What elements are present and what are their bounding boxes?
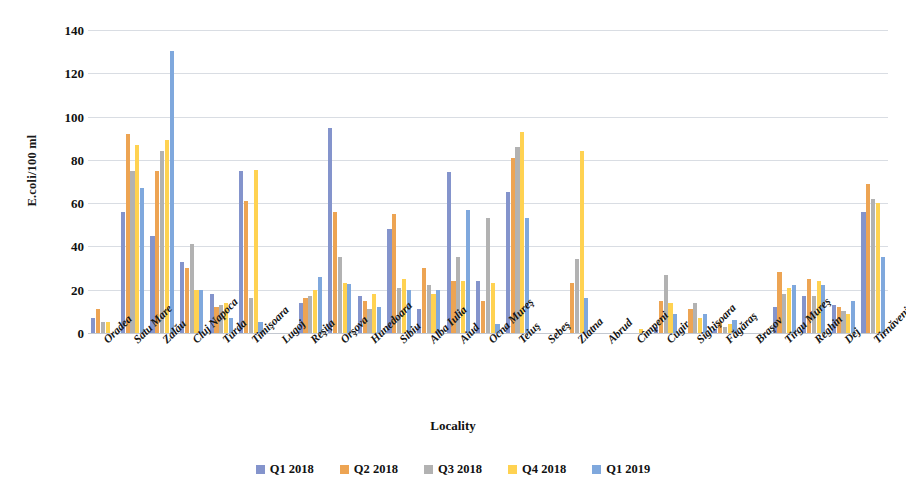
bar-group [325, 30, 355, 333]
legend-swatch-icon [256, 465, 265, 474]
bar [338, 257, 342, 333]
bar-chart: E.coli/100 ml 020406080100120140 OradeaS… [0, 0, 906, 504]
bar-group [177, 30, 207, 333]
bar [328, 128, 332, 333]
bar-group [592, 30, 622, 333]
bar [333, 212, 337, 333]
bar [486, 218, 490, 333]
bar [688, 309, 692, 333]
legend-swatch-icon [340, 465, 349, 474]
bar-group [740, 30, 770, 333]
bar-group [562, 30, 592, 333]
bar [101, 322, 105, 333]
bar-group [769, 30, 799, 333]
bar-group [681, 30, 711, 333]
legend-swatch-icon [592, 465, 601, 474]
y-axis-ticks: 020406080100120140 [40, 30, 84, 333]
bar-group [651, 30, 681, 333]
bar-group [532, 30, 562, 333]
bar-group [266, 30, 296, 333]
y-axis-tick-label: 140 [48, 24, 84, 37]
bar [372, 294, 376, 333]
bar [861, 212, 865, 333]
bar [481, 301, 485, 333]
bar-groups [88, 30, 888, 333]
bar-group [355, 30, 385, 333]
legend-label: Q4 2018 [522, 462, 566, 477]
bar [693, 303, 697, 333]
bar [876, 203, 880, 333]
legend-label: Q1 2018 [270, 462, 314, 477]
bar-group [236, 30, 266, 333]
bar-group [621, 30, 651, 333]
bar [343, 283, 347, 333]
bar [170, 51, 174, 333]
bar [140, 188, 144, 333]
legend-swatch-icon [508, 465, 517, 474]
x-axis-ticks: OradeaSatu MareZalăuCluj NapocaTurdaTimi… [88, 333, 888, 423]
bar [313, 290, 317, 333]
legend-label: Q1 2019 [606, 462, 650, 477]
bar [422, 268, 426, 333]
legend-label: Q2 2018 [354, 462, 398, 477]
legend-item[interactable]: Q1 2018 [256, 462, 314, 477]
y-axis-title-label: E.coli/100 ml [25, 134, 40, 206]
bar-group [147, 30, 177, 333]
bar [427, 285, 431, 333]
bar [525, 218, 529, 333]
bar-group [473, 30, 503, 333]
bar [511, 158, 515, 333]
y-axis-tick-label: 80 [48, 153, 84, 166]
bar [664, 275, 668, 333]
x-axis-title: Locality [0, 418, 906, 434]
legend-swatch-icon [424, 465, 433, 474]
bar-group [384, 30, 414, 333]
bar-group [858, 30, 888, 333]
legend-item[interactable]: Q4 2018 [508, 462, 566, 477]
x-axis-title-label: Locality [430, 418, 476, 433]
bar [239, 171, 243, 333]
bar [575, 259, 579, 333]
bar [580, 151, 584, 333]
legend: Q1 2018Q2 2018Q3 2018Q4 2018Q1 2019 [0, 462, 906, 477]
bar [194, 290, 198, 333]
bar [91, 318, 95, 333]
bar-group [710, 30, 740, 333]
bar-group [444, 30, 474, 333]
bar-group [414, 30, 444, 333]
y-axis-tick-label: 0 [48, 327, 84, 340]
bar [135, 145, 139, 333]
plot-area [88, 30, 888, 333]
bar [871, 199, 875, 333]
bar [881, 257, 885, 333]
bar [782, 294, 786, 333]
bar [447, 172, 451, 333]
bar [249, 298, 253, 333]
bar-group [88, 30, 118, 333]
bar-group [503, 30, 533, 333]
bar [244, 201, 248, 333]
bar-group [118, 30, 148, 333]
bar [96, 309, 100, 333]
bar [126, 134, 130, 333]
legend-item[interactable]: Q1 2019 [592, 462, 650, 477]
bar [787, 288, 791, 333]
legend-item[interactable]: Q2 2018 [340, 462, 398, 477]
bar [130, 171, 134, 333]
bar [491, 283, 495, 333]
bar-group [829, 30, 859, 333]
bar [254, 170, 258, 333]
bar [866, 184, 870, 333]
y-axis-tick-label: 120 [48, 67, 84, 80]
bar-group [207, 30, 237, 333]
y-axis-tick-label: 20 [48, 283, 84, 296]
legend-label: Q3 2018 [438, 462, 482, 477]
y-axis-tick-label: 60 [48, 197, 84, 210]
bar-group [799, 30, 829, 333]
bar-group [295, 30, 325, 333]
y-axis-tick-label: 100 [48, 110, 84, 123]
bar [190, 244, 194, 333]
y-axis-tick-label: 40 [48, 240, 84, 253]
bar [308, 296, 312, 333]
legend-item[interactable]: Q3 2018 [424, 462, 482, 477]
